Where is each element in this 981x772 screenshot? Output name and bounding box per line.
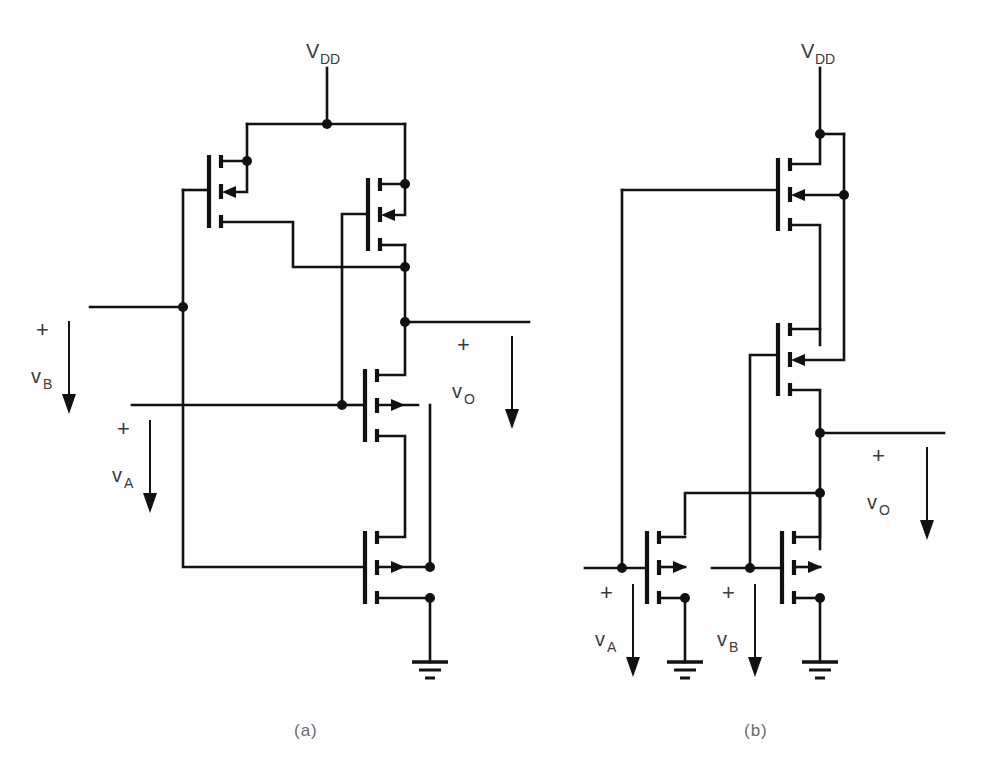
va-a-plus: + — [117, 416, 130, 441]
vb-label-a: + v B — [31, 317, 76, 414]
vdd-label-b-sub: DD — [815, 51, 835, 67]
mp1-a-source-lead — [221, 124, 247, 161]
mp1-a-drain-lead — [221, 222, 405, 267]
vo-a-main: v — [452, 380, 462, 402]
pmos-mp1-a — [183, 124, 405, 267]
vb-b-plus: + — [722, 580, 735, 605]
nmos-mn2-a — [90, 190, 435, 662]
pmos-mp2-a — [342, 124, 410, 405]
va-a-sub: A — [124, 475, 134, 491]
vb-b-main: v — [717, 628, 727, 650]
va-b-main: v — [595, 628, 605, 650]
va-a-arrow-head — [143, 493, 157, 513]
junction-vdd-a — [322, 119, 332, 129]
vo-label-a: + v O — [452, 332, 519, 429]
vdd-label-a-main: V — [306, 40, 320, 62]
mn1-b-bulk-arrow — [673, 561, 687, 573]
va-label-b: + v A — [595, 580, 640, 677]
mp2-a-bulk-arrow — [381, 209, 395, 221]
mp1-b-source-lead — [790, 134, 820, 164]
mn1-a-drain-lead — [377, 322, 405, 375]
mn2-a-gate-lead — [183, 190, 365, 567]
mn2-a-bulk-arrow — [391, 561, 405, 573]
vo-a-plus: + — [457, 332, 470, 357]
va-b-arrow-head — [626, 657, 640, 677]
nmos-mn1-a — [132, 322, 430, 570]
vdd-label-b: V DD — [801, 40, 835, 67]
vo-b-sub: O — [879, 502, 890, 518]
caption-a: (a) — [294, 721, 318, 740]
vb-b-arrow-head — [748, 657, 762, 677]
ndrain-bus-b — [685, 493, 820, 534]
mp2-a-source-lead — [380, 124, 405, 184]
vo-label-b: + v O — [867, 443, 934, 540]
junction-vb-b — [745, 563, 755, 573]
mp1-b-bulk-arrow — [791, 189, 805, 201]
circuit-b: V DD — [585, 40, 944, 740]
circuit-a: V DD — [31, 40, 529, 740]
ground-symbol-a — [412, 662, 448, 678]
va-a-main: v — [112, 464, 122, 486]
mn2-b-bulk-arrow — [808, 561, 822, 573]
mp2-b-bulk-arrow — [791, 354, 805, 366]
mp2-b-drain-lead — [790, 390, 820, 493]
vo-a-sub: O — [464, 391, 475, 407]
mn2-b-drain-lead — [794, 493, 820, 537]
vdd-label-a: V DD — [306, 40, 340, 67]
junction-mn2-a-bulk — [425, 562, 435, 572]
mp1-a-bulk-arrow — [222, 186, 236, 198]
vb-label-b: + v B — [717, 580, 762, 677]
vb-a-main: v — [31, 365, 41, 387]
pmos-mp1-b — [622, 134, 849, 345]
mn1-a-source-lead — [377, 436, 405, 537]
mp1-b-drain-lead — [790, 225, 820, 345]
vb-a-sub: B — [43, 376, 52, 392]
circuit-schematic-svg: V DD — [0, 0, 981, 772]
pmos-mp2-b — [750, 195, 844, 568]
vo-b-main: v — [867, 491, 877, 513]
vb-b-sub: B — [729, 639, 738, 655]
va-b-plus: + — [600, 580, 613, 605]
junction-mp2-a-drain — [400, 262, 410, 272]
mp2-b-gate-lead — [750, 355, 778, 568]
vo-a-arrow-head — [505, 409, 519, 429]
nmos-mn2-b — [712, 493, 825, 662]
figure-canvas: V DD — [0, 0, 981, 772]
va-label-a: + v A — [112, 416, 157, 513]
ground-symbol-b-right — [802, 662, 838, 678]
mp2-b-bulk-lead — [801, 195, 844, 360]
vdd-label-a-sub: DD — [320, 51, 340, 67]
vo-b-arrow-head — [920, 520, 934, 540]
va-b-sub: A — [607, 639, 617, 655]
vb-a-arrow-head — [62, 394, 76, 414]
vb-a-plus: + — [36, 317, 49, 342]
ground-symbol-b-left — [667, 662, 703, 678]
vdd-label-b-main: V — [801, 40, 815, 62]
vo-b-plus: + — [872, 443, 885, 468]
caption-b: (b) — [744, 721, 768, 740]
mn1-a-bulk-arrow — [391, 399, 405, 411]
